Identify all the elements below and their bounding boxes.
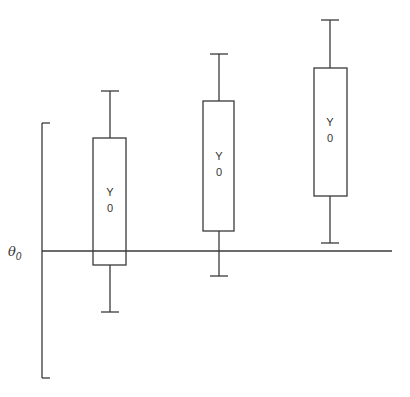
theta-label: θ0: [8, 244, 22, 262]
box-label-y: Y: [106, 186, 114, 198]
box-plot-1: Y0: [93, 91, 126, 312]
box-plot-3: Y0: [314, 20, 347, 243]
box-label-y: Y: [215, 150, 223, 162]
boxplot-diagram: θ0 Y0Y0Y0: [0, 0, 410, 397]
box-plot-2: Y0: [203, 54, 234, 276]
boxes-group: Y0Y0Y0: [93, 20, 347, 312]
box-label-y: Y: [326, 116, 334, 128]
box-label-subscript: 0: [107, 202, 113, 214]
box-label-subscript: 0: [216, 166, 222, 178]
box-label-subscript: 0: [327, 132, 333, 144]
